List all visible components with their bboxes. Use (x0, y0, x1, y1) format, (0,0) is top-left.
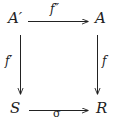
node-bottom-left: S (10, 101, 20, 116)
commutative-diagram: A′ A S R f″ f′ f σ (0, 0, 119, 122)
edge-label-bottom: σ (53, 108, 61, 119)
node-top-right: A (95, 11, 106, 26)
edge-label-top: f″ (50, 3, 59, 15)
edge-label-left: f′ (5, 55, 12, 67)
node-top-left: A′ (8, 11, 22, 26)
node-bottom-right: R (96, 101, 107, 116)
edge-label-right: f (102, 55, 106, 67)
